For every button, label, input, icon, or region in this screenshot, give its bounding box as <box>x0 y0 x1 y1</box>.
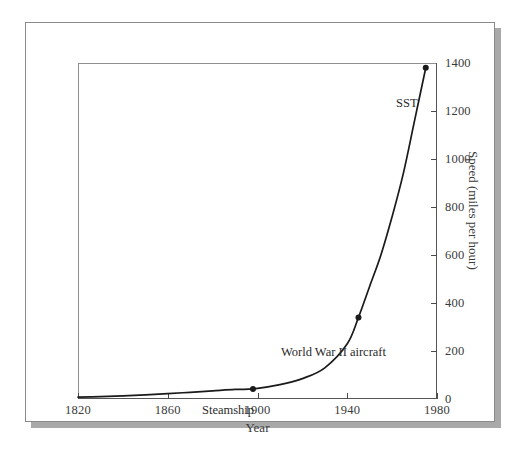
plot-area: 18201860190019401980 0200400600800100012… <box>78 63 437 399</box>
figure-card: 18201860190019401980 0200400600800100012… <box>25 22 495 422</box>
x-tick-label: 1940 <box>334 403 360 418</box>
curve-markers <box>250 65 429 392</box>
y-tick-label: 400 <box>445 296 464 311</box>
y-axis-label: Speed (miles per hour) <box>465 151 481 171</box>
x-tick-label: 1860 <box>155 403 181 418</box>
data-point-marker <box>250 386 256 392</box>
y-tick-label: 1400 <box>445 56 471 71</box>
data-point-marker <box>423 65 429 71</box>
y-tick-label: 1200 <box>445 104 471 119</box>
annotation-sst: SST <box>396 96 418 111</box>
y-tick-label: 0 <box>445 392 451 407</box>
x-tick <box>437 393 438 399</box>
annotation-steamship: Steamship <box>202 403 254 418</box>
y-tick-label: 600 <box>445 248 464 263</box>
annotation-wwii-aircraft: World War II aircraft <box>281 345 386 360</box>
y-tick-label: 200 <box>445 344 464 359</box>
x-tick-label: 1820 <box>65 403 91 418</box>
y-tick-label: 800 <box>445 200 464 215</box>
x-axis-label: Year <box>78 420 437 436</box>
data-point-marker <box>355 314 361 320</box>
